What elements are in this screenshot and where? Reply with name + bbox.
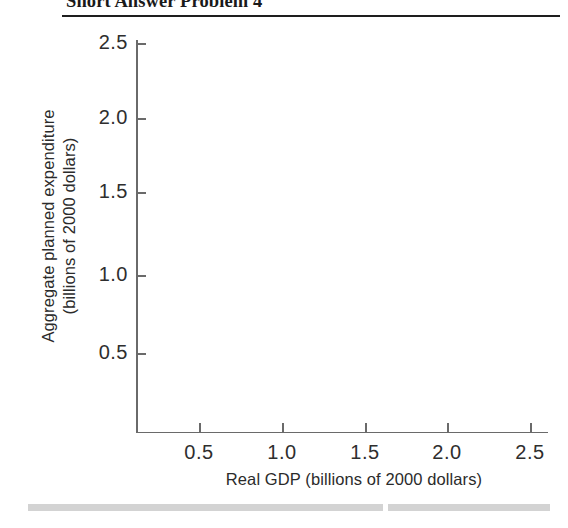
y-axis-tick-label: 1.0 <box>82 263 128 286</box>
y-axis-tick <box>137 275 146 277</box>
x-axis-title: Real GDP (billions of 2000 dollars) <box>148 470 560 489</box>
x-axis-tick <box>530 423 532 432</box>
y-axis-tick-label: 1.5 <box>82 180 128 203</box>
footer-bar-segment-right <box>388 504 550 511</box>
footer-decorative-bar <box>28 504 550 511</box>
y-axis-title-line-2: (billions of 2000 dollars) <box>59 46 80 406</box>
x-axis-tick-label: 2.0 <box>417 441 477 464</box>
y-axis-line <box>136 40 138 433</box>
x-axis-tick <box>447 423 449 432</box>
y-axis-tick-label: 2.0 <box>82 106 128 129</box>
x-axis-tick <box>282 423 284 432</box>
y-axis-tick-label: 2.5 <box>82 31 128 54</box>
y-axis-tick <box>137 118 146 120</box>
y-axis-tick <box>137 192 146 194</box>
y-axis-tick-label: 0.5 <box>82 341 128 364</box>
x-axis-tick-label: 0.5 <box>169 441 229 464</box>
y-axis-tick <box>137 353 146 355</box>
y-axis-tick <box>137 43 146 45</box>
x-axis-tick-label: 1.5 <box>335 441 395 464</box>
x-axis-tick-label: 2.5 <box>500 441 560 464</box>
worksheet-page: Short Answer Problem 4 2.5 2.0 1.5 1.0 0… <box>0 0 568 528</box>
footer-bar-segment-left <box>28 504 383 511</box>
chart-plot-area: 2.5 2.0 1.5 1.0 0.5 0.5 1.0 1.5 2.0 2.5 … <box>0 0 568 528</box>
x-axis-tick-label: 1.0 <box>252 441 312 464</box>
x-axis-tick <box>199 423 201 432</box>
x-axis-line <box>136 432 548 434</box>
y-axis-title-line-1: Aggregate planned expenditure <box>38 46 59 406</box>
y-axis-title: Aggregate planned expenditure (billions … <box>38 46 80 406</box>
x-axis-tick <box>365 423 367 432</box>
